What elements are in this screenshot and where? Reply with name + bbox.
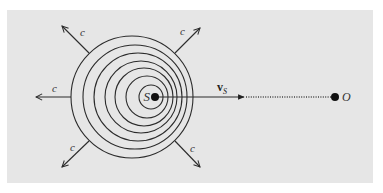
wave-speed-label: c <box>190 142 195 154</box>
observer-dot <box>331 93 339 101</box>
wave-speed-label: c <box>70 141 75 153</box>
wave-speed-label: c <box>52 82 57 94</box>
source-label: S <box>144 89 151 104</box>
source-dot <box>151 93 159 101</box>
wave-speed-label: c <box>180 25 185 37</box>
velocity-subscript: S <box>223 87 227 96</box>
wave-speed-label: c <box>80 26 85 38</box>
doppler-diagram: ccccc S O vS <box>0 0 383 193</box>
observer-label: O <box>342 90 351 104</box>
